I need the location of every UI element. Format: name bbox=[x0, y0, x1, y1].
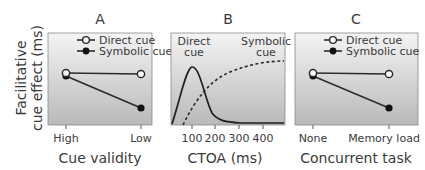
direct-point-memory bbox=[385, 70, 392, 77]
panel-b-title: B bbox=[223, 11, 233, 27]
direct-point-none bbox=[309, 69, 316, 76]
y-axis-label: Facilitative cue effect (ms) bbox=[13, 25, 45, 131]
panel-a-xlabel: Cue validity bbox=[59, 150, 142, 166]
panel-b-xlabel: CTOA (ms) bbox=[188, 150, 263, 166]
panel-c-xlabel: Concurrent task bbox=[300, 150, 413, 166]
x-tick-none: None bbox=[299, 132, 328, 145]
figure: Facilitative cue effect (ms) A Direct cu… bbox=[0, 0, 425, 170]
panel-c-title: C bbox=[351, 11, 361, 27]
panel-a: A Direct cue Symbolic cue High Low Cue v… bbox=[48, 11, 173, 166]
x-tick-400: 400 bbox=[253, 132, 274, 145]
x-tick-low: Low bbox=[130, 132, 152, 145]
x-tick-300: 300 bbox=[229, 132, 250, 145]
direct-point-low bbox=[137, 70, 144, 77]
filled-circle-marker-icon bbox=[330, 48, 337, 55]
legend-symbolic-cue: Symbolic cue bbox=[346, 45, 420, 58]
y-axis-label-line2: cue effect (ms) bbox=[29, 25, 45, 131]
x-tick-200: 200 bbox=[205, 132, 226, 145]
symbolic-point-low bbox=[137, 104, 144, 111]
x-tick-high: High bbox=[53, 132, 78, 145]
panel-c: C Direct cue Symbolic cue None Memory lo… bbox=[295, 11, 420, 166]
direct-cue-line bbox=[66, 73, 141, 74]
symbolic-point-memory bbox=[385, 104, 392, 111]
open-circle-marker-icon bbox=[330, 37, 337, 44]
x-tick-memory-load: Memory load bbox=[348, 132, 420, 145]
panel-b: B Directcue Symboliccue 100 200 300 400 … bbox=[171, 11, 291, 166]
y-axis-label-line1: Facilitative bbox=[13, 40, 29, 115]
legend-symbolic-cue: Symbolic cue bbox=[99, 45, 173, 58]
panel-a-title: A bbox=[95, 11, 105, 27]
direct-point-high bbox=[62, 69, 69, 76]
open-circle-marker-icon bbox=[83, 37, 90, 44]
x-tick-100: 100 bbox=[182, 132, 203, 145]
filled-circle-marker-icon bbox=[83, 48, 90, 55]
direct-cue-line bbox=[313, 73, 389, 74]
